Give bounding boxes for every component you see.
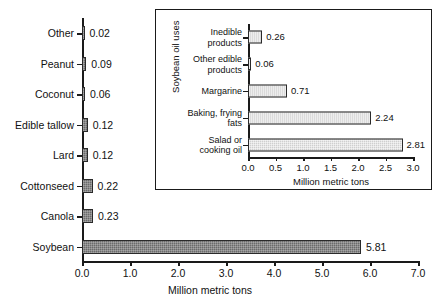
- main-x-axis-label: Million metric tons: [0, 285, 420, 296]
- main-x-tick: [82, 261, 84, 266]
- main-x-tick: [178, 261, 180, 266]
- main-category-label: Cottonseed: [20, 181, 74, 192]
- main-value-label: 0.02: [90, 28, 110, 39]
- inset-bar: [248, 31, 262, 44]
- inset-category-label: Inedibleproducts: [207, 27, 242, 48]
- main-x-tick: [130, 261, 132, 266]
- main-category-label: Peanut: [41, 59, 74, 70]
- main-x-tick: [322, 261, 324, 266]
- main-value-label: 0.23: [98, 211, 118, 222]
- main-bar: [82, 26, 85, 40]
- inset-chart-row: Inedibleproducts0.26: [248, 24, 413, 51]
- main-value-label: 0.09: [91, 59, 111, 70]
- main-category-label: Edible tallow: [15, 120, 74, 131]
- chart-figure: Other0.02Peanut0.09Coconut0.06Edible tal…: [0, 0, 448, 302]
- inset-x-tick: [248, 157, 250, 161]
- inset-value-label: 0.26: [266, 33, 285, 43]
- main-x-tick-label: 7.0: [411, 268, 426, 279]
- main-category-label: Other: [48, 28, 74, 39]
- inset-value-label: 0.71: [291, 86, 310, 96]
- inset-chart-row: Other edibleproducts0.06: [248, 51, 413, 78]
- main-bar: [82, 240, 361, 254]
- main-x-tick-label: 1.0: [123, 268, 138, 279]
- inset-value-label: 2.81: [407, 140, 426, 150]
- main-x-tick-label: 4.0: [267, 268, 282, 279]
- main-x-tick-label: 5.0: [315, 268, 330, 279]
- main-chart-row: Canola0.23: [82, 201, 418, 232]
- inset-x-tick-label: 1.5: [324, 163, 337, 173]
- main-bar: [82, 209, 93, 223]
- inset-x-tick-label: 0.5: [269, 163, 282, 173]
- main-category-label: Soybean: [33, 242, 74, 253]
- main-category-label: Canola: [41, 211, 74, 222]
- inset-bar: [248, 84, 287, 97]
- inset-chart-panel: Soybean oil uses Million metric tons Ine…: [155, 9, 432, 190]
- inset-x-tick-label: 2.0: [351, 163, 364, 173]
- inset-bar: [248, 58, 251, 71]
- main-category-label: Coconut: [35, 89, 74, 100]
- main-value-label: 5.81: [366, 242, 386, 253]
- inset-value-label: 0.06: [255, 59, 274, 69]
- main-value-label: 0.06: [90, 89, 110, 100]
- inset-category-label: Salad orcooking oil: [199, 134, 242, 155]
- main-x-tick: [274, 261, 276, 266]
- inset-bar: [248, 138, 403, 151]
- main-chart-row: Soybean5.81: [82, 232, 418, 263]
- inset-category-label: Baking, fryingfats: [187, 107, 242, 128]
- main-bar: [82, 148, 88, 162]
- main-value-label: 0.22: [98, 181, 118, 192]
- main-bar: [82, 57, 86, 71]
- inset-x-tick-label: 3.0: [406, 163, 419, 173]
- main-value-label: 0.12: [93, 120, 113, 131]
- inset-bar: [248, 111, 371, 124]
- main-bar: [82, 118, 88, 132]
- inset-value-label: 2.24: [375, 113, 394, 123]
- main-value-label: 0.12: [93, 150, 113, 161]
- main-x-tick-label: 6.0: [363, 268, 378, 279]
- inset-chart-row: Margarine0.71: [248, 78, 413, 105]
- inset-x-tick: [413, 157, 415, 161]
- inset-x-tick: [386, 157, 388, 161]
- main-category-label: Lard: [53, 150, 74, 161]
- inset-x-tick: [276, 157, 278, 161]
- main-x-tick: [226, 261, 228, 266]
- inset-chart-row: Baking, fryingfats2.24: [248, 104, 413, 131]
- main-x-tick-label: 3.0: [219, 268, 234, 279]
- main-bar: [82, 87, 85, 101]
- inset-category-label: Other edibleproducts: [193, 54, 242, 75]
- main-x-tick: [418, 261, 420, 266]
- inset-y-axis-label: Soybean oil uses: [171, 0, 181, 122]
- inset-x-tick: [303, 157, 305, 161]
- inset-x-tick-label: 1.0: [296, 163, 309, 173]
- main-x-tick-label: 0.0: [75, 268, 90, 279]
- main-x-tick: [370, 261, 372, 266]
- inset-x-tick-label: 0.0: [241, 163, 254, 173]
- inset-x-tick-label: 2.5: [379, 163, 392, 173]
- inset-x-tick: [331, 157, 333, 161]
- main-x-tick-label: 2.0: [171, 268, 186, 279]
- main-bar: [82, 179, 93, 193]
- inset-x-tick: [358, 157, 360, 161]
- inset-category-label: Margarine: [201, 86, 242, 96]
- inset-x-axis-label: Million metric tons: [248, 177, 414, 187]
- inset-chart-row: Salad orcooking oil2.81: [248, 131, 413, 158]
